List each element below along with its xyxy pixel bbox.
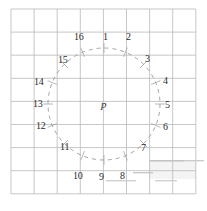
point-label-7: 7 (141, 143, 146, 153)
figure-canvas: 12345678910111213141516p (0, 0, 207, 211)
point-label-15: 15 (58, 55, 68, 65)
point-label-12: 12 (36, 121, 46, 131)
point-label-9: 9 (99, 172, 104, 182)
center-variable-label: p (101, 99, 107, 110)
point-tick-10 (81, 151, 85, 160)
point-label-10: 10 (73, 171, 83, 181)
point-tick-14 (48, 81, 57, 85)
point-label-1: 1 (103, 32, 108, 42)
point-tick-6 (151, 124, 160, 128)
point-tick-12 (48, 124, 57, 128)
scan-streak-3 (133, 172, 153, 173)
point-label-3: 3 (145, 54, 150, 64)
point-label-16: 16 (74, 32, 84, 42)
point-label-2: 2 (126, 32, 131, 42)
scan-streak-5 (155, 180, 177, 181)
point-label-6: 6 (163, 122, 168, 132)
point-label-5: 5 (165, 100, 170, 110)
scan-streak-2 (184, 160, 204, 161)
point-label-8: 8 (120, 171, 125, 181)
point-label-13: 13 (33, 99, 43, 109)
point-label-4: 4 (163, 76, 168, 86)
point-label-14: 14 (34, 77, 44, 87)
point-label-11: 11 (60, 142, 69, 152)
scan-streak-1 (150, 160, 184, 162)
point-tick-4 (151, 81, 160, 85)
